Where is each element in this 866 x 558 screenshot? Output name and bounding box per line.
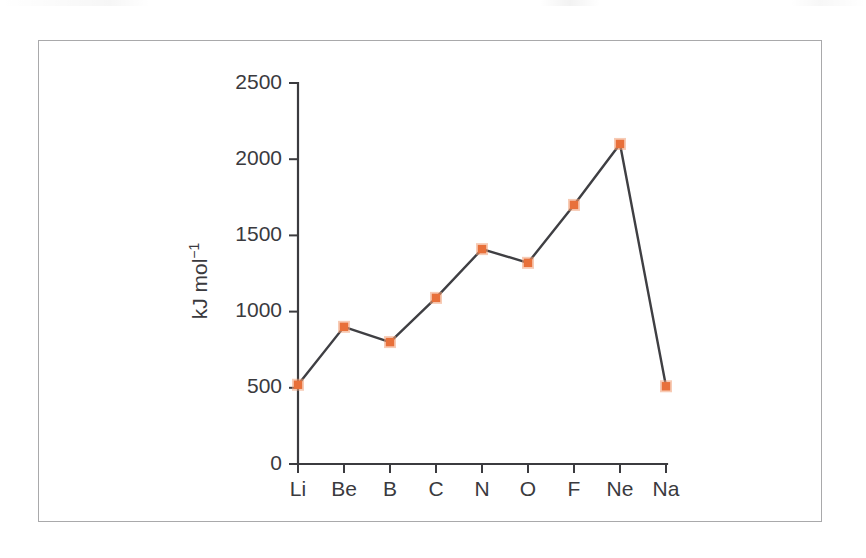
y-tick-label: 500 bbox=[247, 374, 282, 397]
data-point-c[interactable]: C: 1090 bbox=[432, 294, 440, 302]
x-tick-label: C bbox=[428, 477, 443, 500]
axes-group bbox=[298, 83, 667, 464]
data-point-o[interactable]: O: 1320 bbox=[524, 259, 532, 267]
data-point-b[interactable]: B: 800 bbox=[386, 338, 394, 346]
x-tick-label: Be bbox=[331, 477, 357, 500]
x-tick-b: B bbox=[383, 464, 397, 500]
y-tick-label: 0 bbox=[270, 451, 282, 474]
x-tick-label: Ne bbox=[607, 477, 634, 500]
x-tick-label: F bbox=[568, 477, 581, 500]
y-tick-2500: 2500 bbox=[235, 70, 298, 93]
data-point-ne[interactable]: Ne: 2100 bbox=[616, 140, 624, 148]
x-tick-label: B bbox=[383, 477, 397, 500]
data-marker-group: Li: 520Be: 900B: 800C: 1090N: 1410O: 132… bbox=[292, 138, 672, 392]
x-tick-f: F bbox=[568, 464, 581, 500]
data-point-be[interactable]: Be: 900 bbox=[340, 323, 348, 331]
y-tick-label: 1000 bbox=[235, 298, 282, 321]
ionization-energy-line-chart: 2500 2000 1500 1000 500 0 bbox=[39, 41, 823, 523]
y-tick-1500: 1500 bbox=[235, 222, 298, 245]
y-tick-label: 2000 bbox=[235, 146, 282, 169]
y-tick-group: 2500 2000 1500 1000 500 0 bbox=[235, 70, 298, 474]
y-axis-title-main: kJ mol bbox=[188, 259, 211, 320]
data-series-line bbox=[298, 144, 666, 386]
y-tick-2000: 2000 bbox=[235, 146, 298, 169]
x-tick-label: N bbox=[474, 477, 489, 500]
y-tick-0: 0 bbox=[270, 451, 298, 474]
data-point-li[interactable]: Li: 520 bbox=[294, 381, 302, 389]
x-tick-ne: Ne bbox=[607, 464, 634, 500]
y-tick-500: 500 bbox=[247, 374, 298, 397]
data-point-n[interactable]: N: 1410 bbox=[478, 245, 486, 253]
y-tick-1000: 1000 bbox=[235, 298, 298, 321]
y-tick-label: 1500 bbox=[235, 222, 282, 245]
y-axis-title-superscript: −1 bbox=[186, 242, 202, 258]
x-tick-n: N bbox=[474, 464, 489, 500]
x-tick-group: Li Be B C N O bbox=[290, 464, 680, 500]
data-point-na[interactable]: Na: 510 bbox=[662, 382, 670, 390]
x-tick-label: Li bbox=[290, 477, 306, 500]
x-tick-label: O bbox=[520, 477, 536, 500]
figure-frame: 2500 2000 1500 1000 500 0 bbox=[38, 40, 822, 522]
x-tick-label: Na bbox=[653, 477, 680, 500]
data-point-f[interactable]: F: 1700 bbox=[570, 201, 578, 209]
y-axis-title: kJ mol−1 bbox=[186, 242, 211, 319]
x-tick-o: O bbox=[520, 464, 536, 500]
y-tick-label: 2500 bbox=[235, 70, 282, 93]
x-tick-li: Li bbox=[290, 464, 306, 500]
x-tick-be: Be bbox=[331, 464, 357, 500]
y-axis-title-text: kJ mol−1 bbox=[186, 242, 211, 319]
x-tick-na: Na bbox=[653, 464, 680, 500]
x-tick-c: C bbox=[428, 464, 443, 500]
scan-artifact bbox=[0, 0, 866, 6]
